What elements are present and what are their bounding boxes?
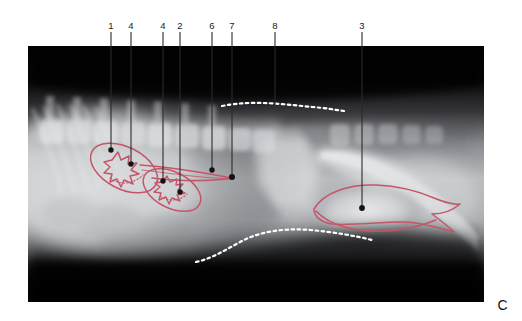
radiograph-figure: 1 4 4 2 6 bbox=[0, 0, 522, 321]
panel-letter: C bbox=[498, 297, 508, 313]
leader-2-dot bbox=[177, 189, 182, 194]
leader-6-dot bbox=[209, 167, 214, 172]
leader-3-dot bbox=[359, 205, 365, 211]
leader-6-label: 6 bbox=[209, 20, 214, 31]
leader-8-label: 8 bbox=[272, 20, 277, 31]
leader-4a-label: 4 bbox=[128, 20, 133, 31]
leader-7-label: 7 bbox=[229, 20, 234, 31]
leader-4a-dot bbox=[128, 161, 133, 166]
leader-1-dot bbox=[108, 147, 113, 152]
leader-4b-label: 4 bbox=[160, 20, 165, 31]
radiograph-image bbox=[0, 46, 484, 302]
leader-7-dot bbox=[229, 174, 235, 180]
leader-1-label: 1 bbox=[108, 20, 113, 31]
leader-4b-dot bbox=[160, 178, 165, 183]
leader-3-label: 3 bbox=[359, 20, 364, 31]
leader-2-label: 2 bbox=[177, 20, 182, 31]
